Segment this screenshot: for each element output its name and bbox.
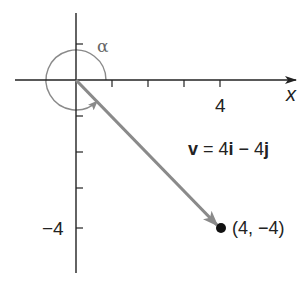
eq-part-1: = 4 [198,139,229,159]
x-axis-label: x [286,84,296,104]
unit-j-symbol: j [264,139,269,159]
eq-part-2: − 4 [234,139,265,159]
y-tick-label-neg4: −4 [42,219,64,238]
diagram-canvas: α 4 x −4 v = 4i − 4j (4, −4) [0,0,308,287]
vector-equation: v = 4i − 4j [188,140,269,158]
x-axis [15,80,296,87]
point-label: (4, −4) [232,219,285,237]
x-tick-label-4: 4 [215,96,226,115]
y-axis [76,13,83,273]
vector-v-symbol: v [188,139,198,159]
alpha-label: α [97,38,108,55]
point-marker [216,223,226,233]
